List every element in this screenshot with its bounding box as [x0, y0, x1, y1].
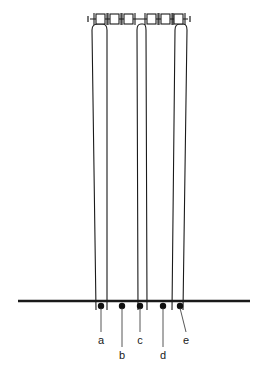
- figure-line-drawing: [0, 0, 275, 376]
- top-connector-rod: [88, 13, 190, 25]
- point-label-d: d: [156, 350, 170, 361]
- tube-group: [92, 24, 187, 310]
- leader-line-e: [180, 308, 186, 332]
- diagram-canvas: a b c d e: [0, 0, 275, 376]
- tube-3: [172, 24, 187, 310]
- point-label-e: e: [179, 335, 193, 346]
- point-label-a: a: [94, 335, 108, 346]
- marker-dots: [98, 303, 183, 309]
- tube-1: [92, 24, 107, 310]
- point-label-b: b: [115, 350, 129, 361]
- tube-2: [137, 24, 147, 310]
- point-label-c: c: [133, 335, 147, 346]
